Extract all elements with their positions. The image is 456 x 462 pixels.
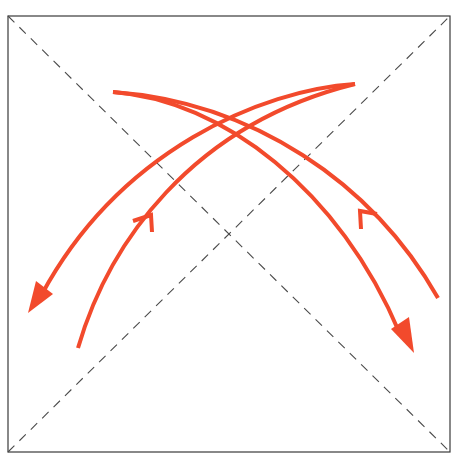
origami-diagram: Valley-fold diagonals with curved foldin…	[0, 0, 456, 462]
diagram-canvas	[0, 0, 456, 462]
